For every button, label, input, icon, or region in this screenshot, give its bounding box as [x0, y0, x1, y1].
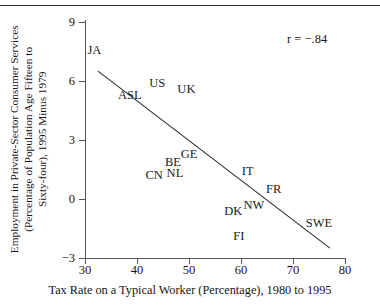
y-tick-label: 0	[53, 193, 75, 206]
x-tick-label: 60	[224, 264, 258, 277]
data-point-label-ja: JA	[87, 43, 101, 56]
y-axis-title: Employment in Private-Sector Consumer Se…	[7, 14, 50, 264]
x-axis-line	[84, 258, 346, 259]
y-axis-line	[85, 20, 86, 259]
data-point-label-fi: FI	[233, 230, 244, 243]
x-tick-label: 40	[120, 264, 154, 277]
x-tick-label: 70	[276, 264, 310, 277]
correlation-annotation: r = −.84	[287, 33, 327, 46]
scatter-plot-figure: 9630−3 304050607080 JAASLUSUKGEBENLCNITF…	[0, 0, 380, 305]
data-point-label-dk: DK	[224, 205, 242, 218]
y-tick-label: 6	[53, 75, 75, 88]
data-point-label-cn: CN	[145, 169, 162, 182]
y-tick-label: 9	[53, 16, 75, 29]
top-divider-rule	[0, 5, 380, 6]
data-point-label-ge: GE	[181, 148, 198, 161]
y-tick-mark	[79, 22, 85, 23]
y-tick-mark	[79, 81, 85, 82]
data-point-label-swe: SWE	[306, 216, 332, 229]
x-axis-title: Tax Rate on a Typical Worker (Percentage…	[0, 283, 380, 297]
data-point-label-fr: FR	[266, 183, 281, 196]
data-point-label-it: IT	[242, 165, 254, 178]
data-point-label-uk: UK	[177, 83, 195, 96]
data-point-label-asl: ASL	[118, 89, 142, 102]
data-point-label-us: US	[149, 77, 165, 90]
x-tick-label: 30	[68, 264, 102, 277]
y-tick-label: 3	[53, 134, 75, 147]
data-point-label-nl: NL	[167, 167, 184, 180]
y-axis-title-line: Employment in Private-Sector Consumer Se…	[7, 14, 21, 264]
x-tick-label: 50	[172, 264, 206, 277]
x-tick-label: 80	[328, 264, 362, 277]
y-tick-label: −3	[53, 252, 75, 265]
y-axis-title-line: (Percentage of Population Age Fifteen to	[21, 14, 35, 264]
y-tick-mark	[79, 199, 85, 200]
y-axis-title-line: Sixty-four), 1995 Minus 1979	[35, 14, 49, 264]
data-point-label-nw: NW	[244, 199, 265, 212]
y-tick-mark	[79, 140, 85, 141]
